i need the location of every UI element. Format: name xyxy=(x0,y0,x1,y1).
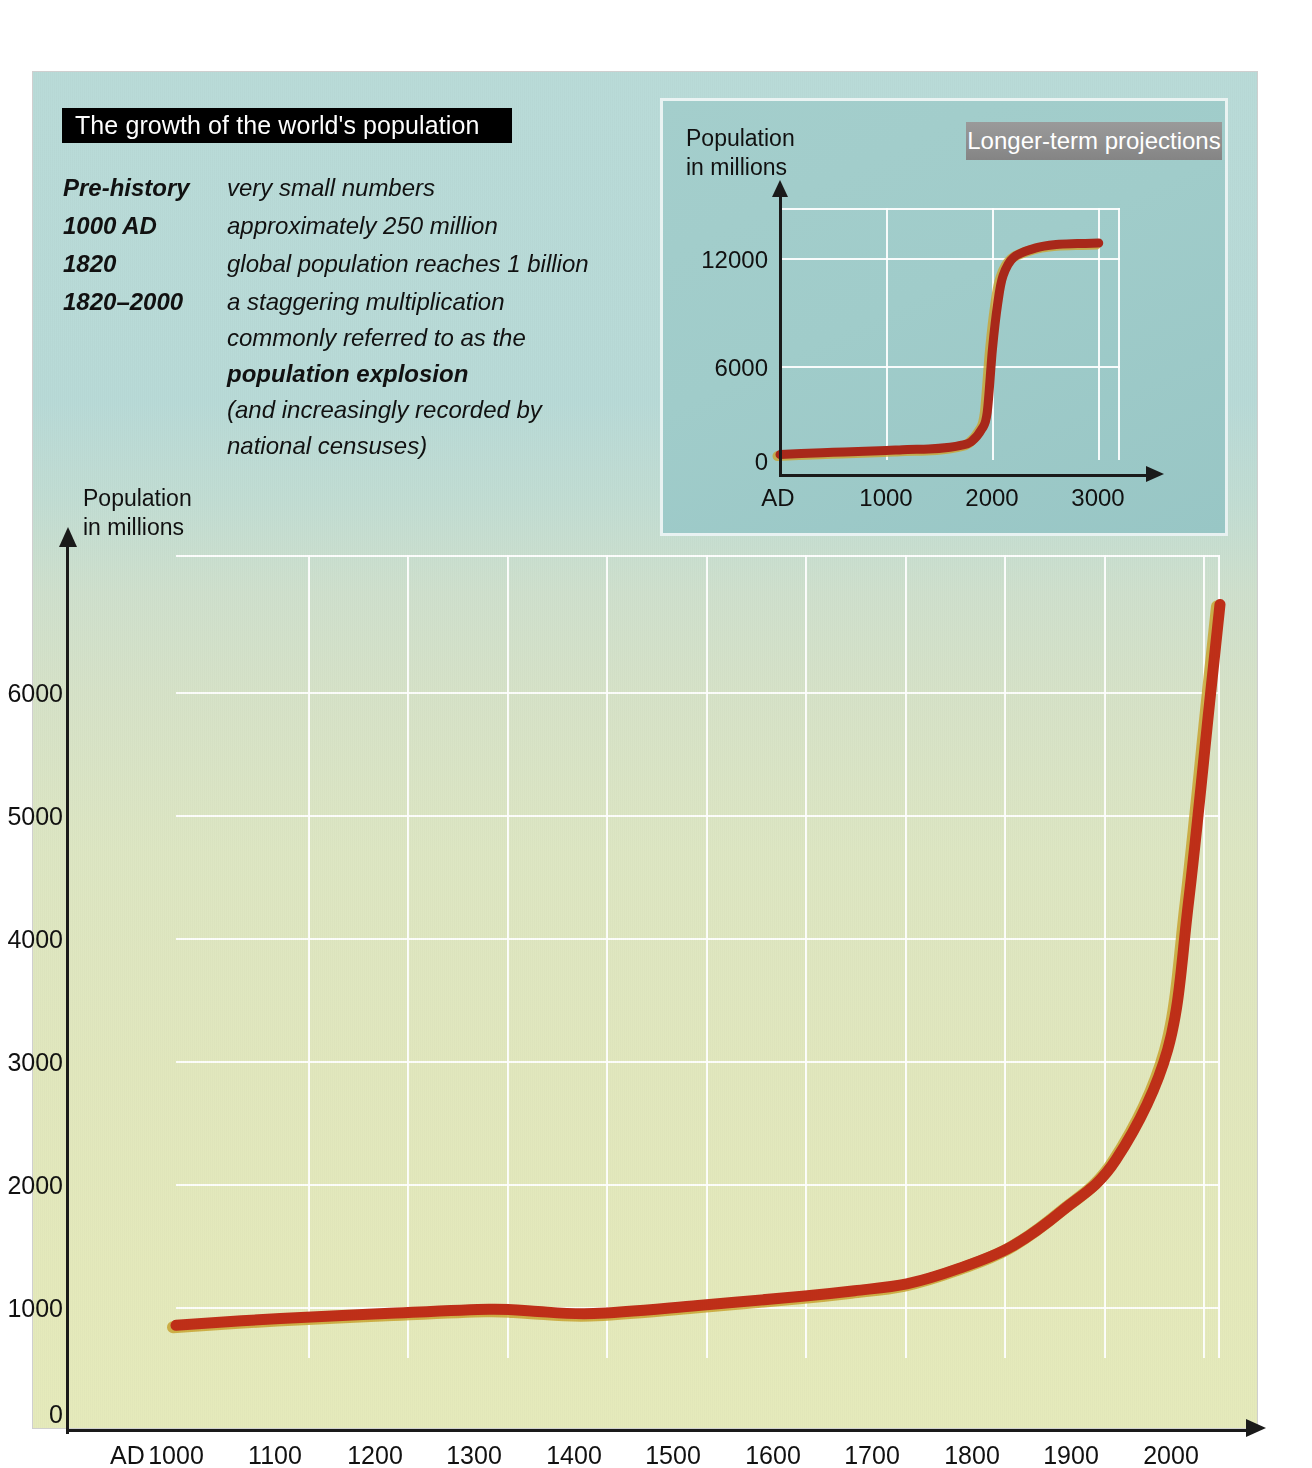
badge-label: Longer-term projections xyxy=(967,127,1220,155)
fact-line: population explosion xyxy=(227,356,542,392)
figure-title: The growth of the world's population xyxy=(62,111,479,140)
fact-description: very small numbers xyxy=(227,170,435,206)
inset-y-axis-arrow-icon xyxy=(772,180,788,197)
inset-xtick-2000: 2000 xyxy=(937,484,1047,512)
inset-xtick-3000: 3000 xyxy=(1043,484,1153,512)
main-axis-title-line2: in millions xyxy=(83,513,192,542)
inset-axis-title-line1: Population xyxy=(686,124,795,153)
longer-term-projections-badge: Longer-term projections xyxy=(966,122,1222,160)
main-population-curve xyxy=(176,555,1220,1358)
fact-term: 1000 AD xyxy=(63,208,227,244)
main-y-axis-arrow-icon xyxy=(59,527,77,547)
inset-curve-highlight xyxy=(778,245,1097,456)
inset-axis-title: Population in millions xyxy=(686,124,795,182)
main-x-axis xyxy=(66,1429,1253,1432)
fact-row: Pre-historyvery small numbers xyxy=(63,170,683,206)
fact-description: a staggering multiplicationcommonly refe… xyxy=(227,284,542,464)
fact-line: a staggering multiplication xyxy=(227,284,542,320)
ytick-1000: 1000 xyxy=(0,1294,63,1323)
main-curve-line xyxy=(176,604,1220,1325)
main-axis-title-line1: Population xyxy=(83,484,192,513)
fact-term: 1820–2000 xyxy=(63,284,227,320)
ytick-5000: 5000 xyxy=(0,802,63,831)
ytick-4000: 4000 xyxy=(0,925,63,954)
fact-description: global population reaches 1 billion xyxy=(227,246,589,282)
inset-panel: Longer-term projections Population in mi… xyxy=(660,98,1228,536)
fact-line: commonly referred to as the xyxy=(227,320,542,356)
ytick-2000: 2000 xyxy=(0,1171,63,1200)
fact-row: 1820–2000a staggering multiplicationcomm… xyxy=(63,284,683,464)
figure-panel: The growth of the world's population Pre… xyxy=(33,72,1257,1428)
fact-row: 1000 ADapproximately 250 million xyxy=(63,208,683,244)
inset-plot-area: 12000 6000 0 AD 1000 2000 3000 xyxy=(780,208,1120,460)
facts-list: Pre-historyvery small numbers1000 ADappr… xyxy=(63,170,683,466)
fact-term: Pre-history xyxy=(63,170,227,206)
xtick-2000: 2000 xyxy=(1111,1441,1231,1468)
inset-axis-title-line2: in millions xyxy=(686,153,795,182)
fact-line: (and increasingly recorded by xyxy=(227,392,542,428)
fact-line: approximately 250 million xyxy=(227,208,498,244)
ytick-0: 0 xyxy=(0,1400,63,1429)
inset-ytick-12000: 12000 xyxy=(658,246,768,274)
fact-line: global population reaches 1 billion xyxy=(227,246,589,282)
fact-row: 1820global population reaches 1 billion xyxy=(63,246,683,282)
inset-x-axis xyxy=(779,474,1151,477)
fact-line: national censuses) xyxy=(227,428,542,464)
inset-population-curve xyxy=(780,208,1120,460)
inset-y-axis xyxy=(779,194,782,476)
main-plot-area xyxy=(176,555,1220,1358)
inset-xtick-ad: AD xyxy=(723,484,833,512)
ytick-3000: 3000 xyxy=(0,1048,63,1077)
fact-description: approximately 250 million xyxy=(227,208,498,244)
main-x-axis-arrow-icon xyxy=(1246,1419,1266,1437)
inset-ytick-6000: 6000 xyxy=(658,354,768,382)
main-axis-title: Population in millions xyxy=(83,484,192,542)
figure-title-bar: The growth of the world's population xyxy=(62,108,512,143)
inset-ytick-0: 0 xyxy=(658,448,768,476)
inset-curve-line xyxy=(780,243,1099,454)
ytick-6000: 6000 xyxy=(0,679,63,708)
inset-xtick-1000: 1000 xyxy=(831,484,941,512)
inset-x-axis-arrow-icon xyxy=(1146,466,1164,482)
fact-term: 1820 xyxy=(63,246,227,282)
main-y-axis xyxy=(66,544,69,1434)
fact-line: very small numbers xyxy=(227,170,435,206)
